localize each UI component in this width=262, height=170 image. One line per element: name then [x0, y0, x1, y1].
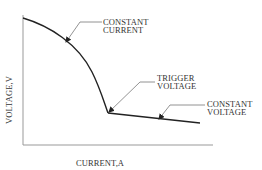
trigger-voltage-leader [109, 82, 155, 112]
constant-current-label: CONSTANT CURRENT [103, 17, 151, 35]
constant-current-leader [66, 22, 102, 42]
y-axis-label: VOLTAGE,V [4, 75, 14, 124]
x-axis-label: CURRENT,A [76, 158, 125, 168]
constant-voltage-leader [159, 105, 205, 119]
constant-voltage-label: CONSTANT VOLTAGE [207, 99, 255, 117]
constant-voltage-line [108, 113, 200, 123]
vi-characteristic-diagram: CONSTANT CURRENT TRIGGER VOLTAGE CONSTAN… [0, 0, 262, 170]
trigger-voltage-label: TRIGGER VOLTAGE [157, 73, 197, 91]
constant-current-curve [23, 18, 108, 113]
